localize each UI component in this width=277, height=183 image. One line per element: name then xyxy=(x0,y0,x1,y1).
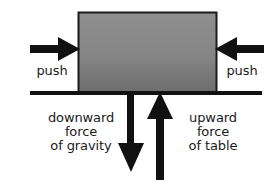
force-diagram-canvas xyxy=(0,0,277,183)
gravity-label: downward force of gravity xyxy=(36,111,126,153)
gravity-label-line-3: of gravity xyxy=(36,139,126,153)
push-left-label-text: push xyxy=(28,64,76,78)
push-left-label: push xyxy=(28,64,76,78)
push-left-arrow xyxy=(30,37,80,61)
normal-force-arrow xyxy=(147,92,173,180)
push-right-label: push xyxy=(218,64,266,78)
gravity-label-line-2: force xyxy=(36,125,126,139)
table-surface-line xyxy=(30,91,262,95)
table-force-label-line-1: upward xyxy=(172,111,254,125)
push-right-arrow xyxy=(215,37,264,61)
push-right-label-text: push xyxy=(218,64,266,78)
table-force-label-line-3: of table xyxy=(172,139,254,153)
gravity-label-line-1: downward xyxy=(36,111,126,125)
force-diagram: push push downward force of gravity upwa… xyxy=(0,0,277,183)
table-force-label: upward force of table xyxy=(172,111,254,153)
table-force-label-line-2: force xyxy=(172,125,254,139)
block-rect xyxy=(79,13,217,93)
